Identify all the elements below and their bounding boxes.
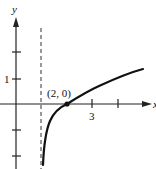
y-tick-label-1: 1: [4, 73, 10, 85]
point-label: (2, 0): [47, 87, 71, 100]
log-graph: y x 1 3 (2, 0): [0, 0, 156, 169]
x-axis-label: x: [152, 98, 156, 110]
y-axis-arrow-icon: [13, 17, 19, 27]
x-tick-label-3: 3: [89, 110, 95, 122]
x-axis-arrow-icon: [142, 101, 152, 107]
point-marker: [64, 101, 69, 106]
y-axis-label: y: [11, 3, 17, 15]
